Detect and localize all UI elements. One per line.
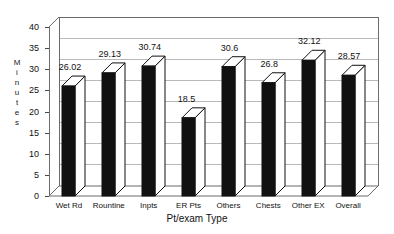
x-axis-tick-label: Overall (320, 201, 376, 210)
bar-value-label: 30.74 (128, 43, 172, 52)
bars-group (0, 0, 394, 234)
bar-value-label: 32.12 (287, 37, 331, 46)
bar-value-label: 28.57 (327, 52, 371, 61)
bar-chart: M i n u t e s 0510152025303540 26.02Wet … (0, 0, 394, 234)
bar (302, 50, 325, 196)
bar (182, 108, 205, 196)
bar (222, 57, 245, 196)
bar (262, 73, 285, 196)
bar-value-label: 18.5 (165, 95, 209, 104)
bars-layer: 26.02Wet Rd29.13Rountine30.74Inpts18.5ER… (0, 0, 394, 234)
bar (62, 76, 85, 196)
bar (142, 56, 165, 196)
bar (102, 63, 125, 196)
x-axis-title: Pt/exam Type (0, 213, 394, 224)
bar-value-label: 30.6 (207, 44, 251, 53)
bar-value-label: 29.13 (88, 50, 132, 59)
bar-value-label: 26.8 (247, 60, 291, 69)
bar (342, 65, 365, 196)
bar-value-label: 26.02 (48, 63, 92, 72)
